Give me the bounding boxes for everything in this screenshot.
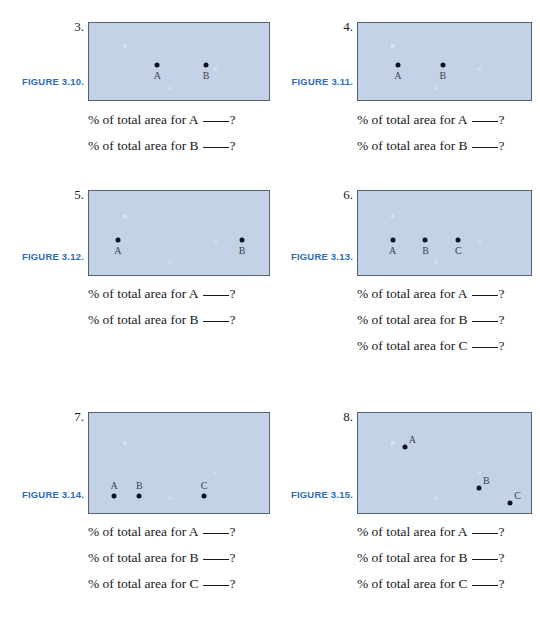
point-label: B [239,245,246,256]
item-number: 3. [58,19,84,35]
point-label: A [394,70,401,81]
question-line: % of total area for A? [88,112,270,129]
question-letter: B [190,550,199,565]
question-line: % of total area for A? [88,524,270,541]
point-label: B [203,70,210,81]
question-line: % of total area for B? [88,312,270,329]
question-line: % of total area for A? [357,112,532,129]
question-suffix: ? [230,550,236,565]
question-prefix: % of total area for [357,576,455,591]
answer-blank[interactable] [472,121,498,122]
answer-blank[interactable] [203,295,229,296]
area-figure-box: AB [88,190,270,276]
question-group: % of total area for A?% of total area fo… [357,286,532,364]
question-prefix: % of total area for [357,112,455,127]
point-label: B [136,480,143,491]
question-group: % of total area for A?% of total area fo… [88,112,270,164]
question-suffix: ? [230,286,236,301]
question-letter: C [190,576,199,591]
point-label: A [154,70,161,81]
area-figure-box: ABC [357,412,532,514]
answer-blank[interactable] [472,321,498,322]
point-dot-icon [137,494,142,499]
answer-blank[interactable] [472,533,498,534]
answer-blank[interactable] [472,585,498,586]
question-line: % of total area for A? [88,286,270,303]
question-letter: B [459,138,468,153]
figure-caption: FIGURE 3.14. [22,489,84,500]
question-suffix: ? [230,138,236,153]
question-prefix: % of total area for [88,138,186,153]
figure-caption: FIGURE 3.13. [291,251,353,262]
item-number: 7. [58,409,84,425]
point-dot-icon [390,237,395,242]
area-figure-box: AB [357,22,532,101]
point-label: A [389,245,396,256]
question-prefix: % of total area for [357,286,455,301]
question-suffix: ? [499,112,505,127]
question-prefix: % of total area for [357,338,455,353]
question-letter: B [190,312,199,327]
exercise-8: 8.FIGURE 3.15.ABC% of total area for A?%… [357,412,532,514]
question-suffix: ? [230,112,236,127]
answer-blank[interactable] [203,585,229,586]
question-prefix: % of total area for [88,576,186,591]
point-dot-icon [204,63,209,68]
question-group: % of total area for A?% of total area fo… [357,112,532,164]
exercise-4: 4.FIGURE 3.11.AB% of total area for A?% … [357,22,532,101]
answer-blank[interactable] [203,321,229,322]
point-dot-icon [202,494,207,499]
question-line: % of total area for B? [357,312,532,329]
answer-blank[interactable] [472,295,498,296]
figure-caption: FIGURE 3.11. [291,76,353,87]
question-group: % of total area for A?% of total area fo… [357,524,532,602]
point-label: B [422,245,429,256]
answer-blank[interactable] [472,147,498,148]
exercise-7: 7.FIGURE 3.14.ABC% of total area for A?%… [88,412,270,514]
point-label: C [455,245,462,256]
point-label: C [201,480,208,491]
point-label: A [114,245,121,256]
point-label: C [514,490,521,501]
item-number: 4. [327,19,353,35]
question-letter: B [459,550,468,565]
point-dot-icon [456,237,461,242]
question-letter: A [189,286,199,301]
area-figure-box: ABC [357,190,532,276]
point-dot-icon [477,486,482,491]
question-suffix: ? [230,576,236,591]
question-letter: A [189,524,199,539]
point-label: B [483,475,490,486]
answer-blank[interactable] [203,147,229,148]
point-dot-icon [508,501,513,506]
question-prefix: % of total area for [357,312,455,327]
question-letter: C [459,576,468,591]
answer-blank[interactable] [472,347,498,348]
exercise-6: 6.FIGURE 3.13.ABC% of total area for A?%… [357,190,532,276]
question-prefix: % of total area for [357,138,455,153]
item-number: 5. [58,187,84,203]
point-label: A [111,480,118,491]
answer-blank[interactable] [203,533,229,534]
question-prefix: % of total area for [357,524,455,539]
question-letter: A [458,524,468,539]
question-suffix: ? [499,286,505,301]
exercise-5: 5.FIGURE 3.12.AB% of total area for A?% … [88,190,270,276]
question-prefix: % of total area for [88,550,186,565]
point-label: B [439,70,446,81]
exercise-3: 3.FIGURE 3.10.AB% of total area for A?% … [88,22,270,101]
question-prefix: % of total area for [88,286,186,301]
question-suffix: ? [230,524,236,539]
question-suffix: ? [499,138,505,153]
answer-blank[interactable] [203,559,229,560]
question-letter: A [458,286,468,301]
answer-blank[interactable] [472,559,498,560]
point-dot-icon [155,63,160,68]
point-label: A [409,434,416,445]
question-prefix: % of total area for [357,550,455,565]
question-suffix: ? [499,550,505,565]
figure-caption: FIGURE 3.15. [291,489,353,500]
item-number: 8. [327,409,353,425]
item-number: 6. [327,187,353,203]
answer-blank[interactable] [203,121,229,122]
